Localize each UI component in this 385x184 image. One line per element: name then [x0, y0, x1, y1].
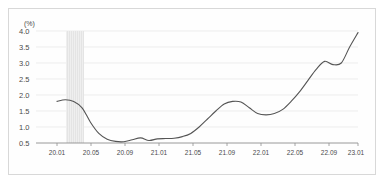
- x-axis-tick-labels: 20.01 20.05 20.09 21.01 21.05 21.09 22.0…: [49, 149, 365, 156]
- line-chart-plot: (%) 4.0 3.5 3.0 2.5 2.0 1.5 1.0 0.5: [9, 9, 375, 174]
- x-tick-label: 22.05: [287, 149, 304, 156]
- y-tick-label: 1.5: [19, 107, 29, 116]
- y-axis-tick-labels: 4.0 3.5 3.0 2.5 2.0 1.5 1.0 0.5: [19, 27, 29, 148]
- y-tick-label: 4.0: [19, 27, 29, 36]
- y-tick-label: 0.5: [19, 139, 29, 148]
- y-tick-label: 2.5: [19, 75, 29, 84]
- x-tick-label: 22.09: [321, 149, 338, 156]
- gridlines-horizontal: [36, 31, 358, 127]
- y-tick-label: 3.5: [19, 43, 29, 52]
- y-tick-label: 2.0: [19, 91, 29, 100]
- x-tick-label: 23.01: [348, 149, 365, 156]
- data-series-line: [57, 33, 358, 142]
- x-tick-label: 20.09: [117, 149, 134, 156]
- y-tick-label: 3.0: [19, 59, 29, 68]
- y-tick-label: 1.0: [19, 123, 29, 132]
- chart-frame: (%) 4.0 3.5 3.0 2.5 2.0 1.5 1.0 0.5: [8, 8, 376, 175]
- x-tick-label: 21.01: [151, 149, 168, 156]
- x-tick-label: 20.01: [49, 149, 66, 156]
- x-tick-label: 20.05: [83, 149, 100, 156]
- x-tick-label: 22.01: [253, 149, 270, 156]
- shaded-band-region: [66, 31, 84, 143]
- x-tick-label: 21.09: [219, 149, 236, 156]
- chart-figure: (%) 4.0 3.5 3.0 2.5 2.0 1.5 1.0 0.5: [0, 0, 385, 184]
- x-tick-label: 21.05: [185, 149, 202, 156]
